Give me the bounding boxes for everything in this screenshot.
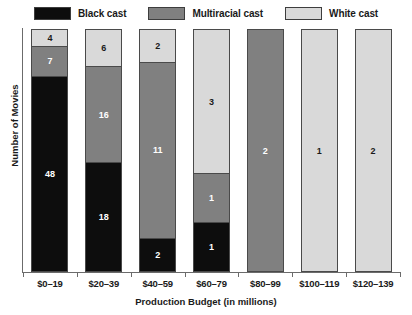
bar-segment[interactable]: 1 [194, 173, 229, 222]
stacked-bar[interactable]: 311 [193, 29, 230, 272]
legend-swatch-multiracial-cast [148, 7, 185, 20]
bar-slot: 2 [238, 29, 292, 272]
bar-segment-value: 16 [99, 110, 109, 120]
bar-segment[interactable]: 4 [32, 30, 67, 46]
bar-segment-value: 2 [263, 146, 268, 156]
bar-segment[interactable]: 3 [194, 30, 229, 173]
stacked-bar[interactable]: 1 [301, 29, 338, 272]
bar-segment-value: 2 [371, 146, 376, 156]
bar-segment-value: 1 [209, 242, 214, 252]
x-axis-tick-label: $120–139 [346, 278, 400, 292]
x-axis-tick [23, 272, 24, 277]
stacked-bar[interactable]: 2 [355, 29, 392, 272]
y-axis-title: Number of Movies [9, 56, 20, 196]
bar-segment-value: 18 [99, 212, 109, 222]
bar-segment-value: 2 [155, 41, 160, 51]
bar-segment-value: 4 [47, 33, 52, 43]
bar-segment[interactable]: 11 [140, 62, 175, 238]
bar-segment-value: 1 [317, 146, 322, 156]
x-axis-tick [346, 272, 347, 277]
x-axis-tick-labels: $0–19$20–39$40–59$60–79$80–99$100–119$12… [23, 278, 400, 292]
x-axis-tick [131, 272, 132, 277]
x-axis-tick-label: $40–59 [131, 278, 185, 292]
x-axis-tick-label: $100–119 [292, 278, 346, 292]
bar-segment[interactable]: 48 [32, 76, 67, 271]
bar-segment[interactable]: 2 [140, 30, 175, 62]
bar-segment[interactable]: 2 [248, 30, 283, 271]
bar-segment[interactable]: 7 [32, 46, 67, 75]
x-axis-tick [400, 272, 401, 277]
bar-slot: 2 [346, 29, 400, 272]
stacked-bar[interactable]: 2112 [139, 29, 176, 272]
legend-swatch-white-cast [285, 7, 322, 20]
legend-label-black-cast: Black cast [78, 8, 126, 19]
bar-group-container: 4748616182112311212 [23, 29, 400, 272]
bar-segment-value: 2 [155, 250, 160, 260]
bar-slot: 2112 [131, 29, 185, 272]
stacked-bar[interactable]: 2 [247, 29, 284, 272]
legend-label-multiracial-cast: Multiracial cast [192, 8, 263, 19]
x-axis-title: Production Budget (in millions) [0, 296, 412, 307]
x-axis-tick-label: $80–99 [238, 278, 292, 292]
bar-segment[interactable]: 2 [140, 238, 175, 271]
stacked-bar[interactable]: 61618 [85, 29, 122, 272]
bar-segment[interactable]: 1 [302, 30, 337, 271]
legend-item-multiracial-cast: Multiracial cast [148, 7, 263, 20]
legend-item-black-cast: Black cast [34, 7, 126, 20]
chart-legend: Black cast Multiracial cast White cast [0, 4, 412, 22]
x-axis-tick-label: $20–39 [77, 278, 131, 292]
bar-segment[interactable]: 18 [86, 162, 121, 271]
bar-segment-value: 7 [47, 56, 52, 66]
x-axis-tick [238, 272, 239, 277]
bar-slot: 4748 [23, 29, 77, 272]
x-axis-tick [292, 272, 293, 277]
bar-segment-value: 1 [209, 193, 214, 203]
x-axis-ticks [23, 272, 400, 277]
bar-segment[interactable]: 16 [86, 66, 121, 163]
stacked-bar[interactable]: 4748 [31, 29, 68, 272]
bar-segment-value: 6 [101, 43, 106, 53]
legend-swatch-black-cast [34, 7, 71, 20]
stacked-bar-chart: Black cast Multiracial cast White cast 4… [0, 0, 412, 315]
bar-segment-value: 48 [45, 169, 55, 179]
legend-item-white-cast: White cast [285, 7, 378, 20]
bar-segment[interactable]: 2 [356, 30, 391, 271]
x-axis-tick-label: $60–79 [185, 278, 239, 292]
bar-slot: 1 [292, 29, 346, 272]
bar-segment[interactable]: 1 [194, 222, 229, 271]
bar-segment[interactable]: 6 [86, 30, 121, 66]
bar-segment-value: 11 [153, 145, 163, 155]
bar-segment-value: 3 [209, 97, 214, 107]
x-axis-tick [77, 272, 78, 277]
bar-slot: 311 [185, 29, 239, 272]
x-axis-tick [185, 272, 186, 277]
x-axis-tick-label: $0–19 [23, 278, 77, 292]
legend-label-white-cast: White cast [329, 8, 378, 19]
bar-slot: 61618 [77, 29, 131, 272]
